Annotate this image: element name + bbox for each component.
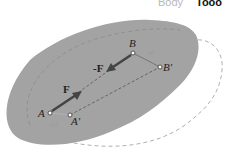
label-Aprime: A' — [70, 115, 81, 127]
point-B — [131, 51, 135, 55]
label-B: B — [129, 37, 136, 49]
label-F: F — [63, 83, 70, 95]
label-Bprime: B' — [163, 61, 173, 73]
label-near-B: dr' — [148, 49, 155, 57]
label-near-A: (a) — [50, 120, 58, 128]
point-A — [48, 111, 52, 115]
label-negF: -F — [93, 62, 104, 74]
point-Bprime — [158, 65, 162, 69]
rigid-body-diagram: A A' B B' F -F (a) dr' — [0, 0, 227, 159]
label-A: A — [37, 107, 45, 119]
